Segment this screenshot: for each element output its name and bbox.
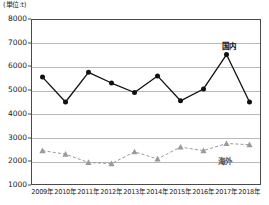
data-point-domestic: [109, 81, 114, 86]
x-tick-label: 2015年: [169, 188, 191, 196]
y-tick-label: 1000: [8, 181, 27, 189]
data-point-domestic: [178, 98, 183, 103]
x-tick-label: 2009年: [31, 188, 53, 196]
data-point-domestic: [63, 100, 68, 105]
x-tick-label: 2012年: [100, 188, 122, 196]
x-tick-label: 2010年: [54, 188, 76, 196]
y-tick-label: 7000: [8, 39, 27, 47]
x-tick-label: 2011年: [77, 188, 99, 196]
data-point-overseas: [154, 156, 160, 162]
y-tick-label: 5000: [8, 86, 27, 94]
x-tick-label: 2013年: [123, 188, 145, 196]
x-tick-label: 2014年: [146, 188, 168, 196]
data-point-overseas: [85, 159, 91, 165]
data-point-domestic: [201, 86, 206, 91]
x-tick-label: 2018年: [238, 188, 260, 196]
series-label-domestic: 国内: [222, 42, 236, 51]
data-point-domestic: [86, 70, 91, 75]
y-tick-label: 6000: [8, 62, 27, 70]
chart-container: (単位:t) 80007000600050004000300020001000 …: [0, 0, 269, 205]
series-label-overseas: 海外: [218, 157, 232, 166]
x-axis: 2009年2010年2011年2012年2013年2014年2015年2016年…: [31, 187, 261, 203]
data-point-overseas: [223, 140, 229, 146]
data-point-overseas: [39, 148, 45, 154]
y-axis: 80007000600050004000300020001000: [0, 0, 31, 205]
y-tick-label: 4000: [8, 110, 27, 118]
data-point-domestic: [40, 75, 45, 80]
data-point-domestic: [132, 90, 137, 95]
series-line-domestic: [43, 55, 250, 102]
y-tick-label: 2000: [8, 157, 27, 165]
data-point-domestic: [224, 52, 229, 57]
x-tick-label: 2017年: [215, 188, 237, 196]
y-tick-label: 8000: [8, 15, 27, 23]
data-point-overseas: [177, 144, 183, 150]
data-point-domestic: [155, 73, 160, 78]
data-point-domestic: [247, 100, 252, 105]
y-tick-label: 3000: [8, 134, 27, 142]
data-point-overseas: [131, 149, 137, 155]
x-tick-label: 2016年: [192, 188, 214, 196]
